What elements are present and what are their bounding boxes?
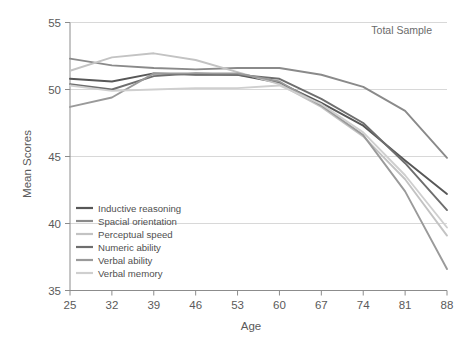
- legend-label-verbal-ability: Verbal ability: [98, 255, 153, 266]
- x-tick-labels: 25323946536067748188: [64, 299, 454, 311]
- chart-container: 5550454035 25323946536067748188 Inductiv…: [0, 0, 469, 351]
- x-tick-label-46: 46: [189, 299, 202, 311]
- y-axis-title: Mean Scores: [21, 130, 33, 198]
- y-tick-labels: 5550454035: [48, 17, 61, 297]
- x-tick-label-74: 74: [357, 299, 370, 311]
- x-tick-label-81: 81: [399, 299, 412, 311]
- x-tick-label-39: 39: [147, 299, 160, 311]
- x-tick-label-67: 67: [315, 299, 328, 311]
- x-tick-label-60: 60: [273, 299, 286, 311]
- legend-label-spacial-orientation: Spacial orientation: [98, 216, 177, 227]
- legend-label-inductive-reasoning: Inductive reasoning: [98, 203, 181, 214]
- legend-label-perceptual-speed: Perceptual speed: [98, 229, 173, 240]
- series-line-inductive-reasoning: [70, 73, 447, 194]
- y-tick-label-35: 35: [48, 285, 61, 297]
- x-tick-label-25: 25: [64, 299, 77, 311]
- x-tick-label-53: 53: [231, 299, 244, 311]
- line-chart: 5550454035 25323946536067748188 Inductiv…: [0, 0, 469, 351]
- series-line-spacial-orientation: [70, 59, 447, 158]
- x-tick-label-88: 88: [441, 299, 454, 311]
- legend-label-verbal-memory: Verbal memory: [98, 268, 163, 279]
- total-sample-annotation: Total Sample: [371, 24, 432, 36]
- y-tick-label-40: 40: [48, 218, 61, 230]
- legend: Inductive reasoningSpacial orientationPe…: [76, 203, 181, 279]
- x-axis-title: Age: [241, 320, 261, 332]
- y-tick-label-55: 55: [48, 17, 61, 29]
- x-tick-label-32: 32: [105, 299, 118, 311]
- legend-label-numeric-ability: Numeric ability: [98, 242, 161, 253]
- series-line-numeric-ability: [70, 73, 447, 210]
- y-tick-label-50: 50: [48, 84, 61, 96]
- y-tick-label-45: 45: [48, 151, 61, 163]
